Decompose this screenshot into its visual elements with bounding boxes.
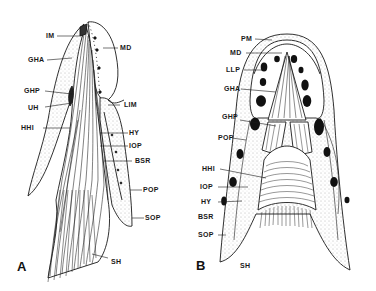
label-b-pop: POP: [218, 134, 234, 142]
label-b-ghp: GHP: [222, 113, 238, 121]
label-a-uh: UH: [28, 104, 39, 112]
label-b-llp: LLP: [226, 66, 240, 74]
label-a-md: MD: [120, 44, 132, 52]
label-a-hhi: HHI: [21, 124, 34, 132]
anatomical-figure: IM MD GHA GHP UH LIM HHI HY IOP BSR POP …: [0, 0, 376, 291]
label-b-bsr: BSR: [198, 213, 214, 221]
label-a-ghp: GHP: [24, 87, 40, 95]
label-a-sop: SOP: [145, 214, 161, 222]
label-a-hy: HY: [129, 129, 139, 137]
label-b-md: MD: [230, 49, 242, 57]
label-a-iop: IOP: [129, 142, 142, 150]
label-a-bsr: BSR: [135, 157, 151, 165]
panel-letter-b: B: [196, 258, 205, 273]
label-b-hy: HY: [201, 198, 211, 206]
label-b-sop: SOP: [198, 231, 214, 239]
label-a-lim: LIM: [124, 101, 137, 109]
panel-letter-a: A: [17, 259, 26, 274]
figure-drawing: [0, 0, 376, 291]
label-a-im: IM: [46, 32, 54, 40]
label-b-hhi: HHI: [202, 165, 215, 173]
label-b-pm: PM: [241, 35, 252, 43]
label-b-iop: IOP: [200, 183, 213, 191]
label-b-sh: SH: [240, 262, 250, 270]
panel-a-drawing: [28, 22, 144, 282]
label-a-pop: POP: [143, 186, 159, 194]
label-a-gha: GHA: [28, 56, 44, 64]
label-a-sh: SH: [111, 258, 121, 266]
label-b-gha: GHA: [224, 85, 240, 93]
